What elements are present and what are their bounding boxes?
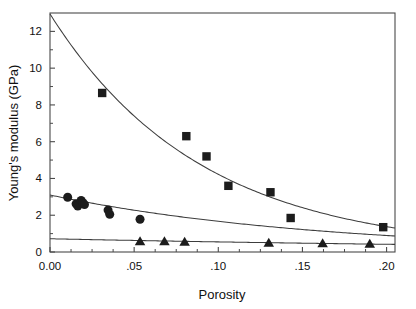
- data-point-circle: [105, 210, 114, 219]
- y-tick-label: 12: [29, 25, 42, 37]
- y-tick-label: 10: [29, 62, 42, 74]
- data-point-square: [98, 89, 106, 97]
- data-point-square: [286, 214, 294, 222]
- scatter-plot-svg: 0246810120.00.05.10.15.20 Porosity Young…: [0, 0, 416, 309]
- y-axis-title: Young's modulus (GPa): [6, 65, 21, 201]
- x-tick-label: .10: [210, 260, 226, 272]
- data-point-circle: [136, 215, 145, 224]
- y-tick-label: 6: [36, 136, 42, 148]
- y-tick-label: 2: [36, 209, 42, 221]
- data-point-square: [224, 182, 232, 190]
- x-tick-label: .20: [379, 260, 395, 272]
- data-point-circle: [63, 193, 72, 202]
- y-tick-label: 0: [36, 246, 42, 258]
- data-point-square: [182, 132, 190, 140]
- data-point-circle: [80, 200, 89, 209]
- data-point-square: [379, 223, 387, 231]
- y-tick-label: 8: [36, 99, 42, 111]
- x-tick-label: .05: [126, 260, 142, 272]
- data-point-square: [202, 152, 210, 160]
- x-tick-label: .15: [294, 260, 310, 272]
- x-axis-title: Porosity: [199, 287, 246, 302]
- data-point-square: [266, 188, 274, 196]
- y-tick-label: 4: [36, 172, 43, 184]
- chart-figure: 0246810120.00.05.10.15.20 Porosity Young…: [0, 0, 416, 309]
- x-tick-label: 0.00: [39, 260, 61, 272]
